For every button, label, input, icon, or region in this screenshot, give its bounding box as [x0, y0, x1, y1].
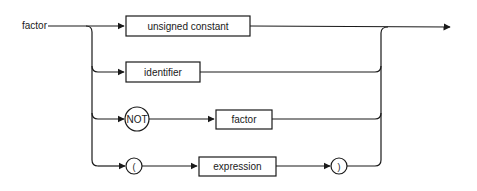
nonterminal-factor: factor: [216, 110, 272, 129]
left-branch-line: [86, 26, 98, 166]
branch-identifier-line: [92, 66, 124, 72]
branch-not-line: [92, 113, 124, 119]
not-label: NOT: [126, 114, 147, 125]
terminal-rparen: ): [331, 158, 347, 174]
factor-ref-label: factor: [231, 114, 257, 125]
exit-line: [250, 26, 450, 27]
terminal-not: NOT: [125, 107, 149, 131]
identifier-exit-line: [200, 66, 381, 72]
right-merge-line: [347, 27, 388, 166]
factor-exit-line: [272, 113, 381, 119]
nonterminal-identifier: identifier: [126, 62, 200, 82]
unsigned-constant-label: unsigned constant: [147, 21, 228, 32]
rule-name-label: factor: [22, 20, 48, 31]
identifier-label: identifier: [144, 67, 182, 78]
terminal-lparen: (: [126, 158, 142, 174]
nonterminal-unsigned-constant: unsigned constant: [126, 16, 250, 36]
rparen-label: ): [338, 162, 341, 172]
lparen-label: (: [133, 162, 136, 172]
nonterminal-expression: expression: [199, 157, 276, 176]
expression-label: expression: [213, 161, 261, 172]
syntax-diagram: factor unsigned constant identifier NOT …: [0, 0, 477, 191]
